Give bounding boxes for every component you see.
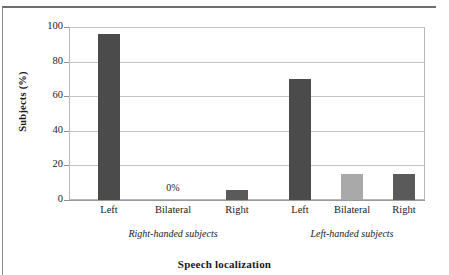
x-category-label: Left — [74, 204, 144, 215]
x-group-label: Left-handed subjects — [262, 228, 442, 239]
x-axis-baseline — [69, 200, 425, 201]
y-tick-mark — [64, 200, 69, 201]
x-group-label: Right-handed subjects — [83, 228, 263, 239]
x-category-label: Bilateral — [138, 204, 208, 215]
y-tick-label: 40 — [23, 124, 63, 135]
x-axis-title: Speech localization — [0, 258, 449, 270]
bars-layer — [69, 27, 425, 200]
y-tick-label: 80 — [23, 55, 63, 66]
bar — [289, 79, 311, 200]
figure-container: Subjects (%) 020406080100 0% LeftBilater… — [0, 0, 449, 275]
bar — [98, 34, 120, 200]
bar — [226, 190, 248, 200]
bar — [393, 174, 415, 200]
bar-value-label: 0% — [153, 182, 193, 193]
bar — [341, 174, 363, 200]
x-category-label: Right — [369, 204, 439, 215]
x-category-label: Right — [202, 204, 272, 215]
y-tick-label: 100 — [23, 20, 63, 31]
y-tick-label: 60 — [23, 89, 63, 100]
y-tick-label: 20 — [23, 158, 63, 169]
y-tick-label: 0 — [23, 193, 63, 204]
